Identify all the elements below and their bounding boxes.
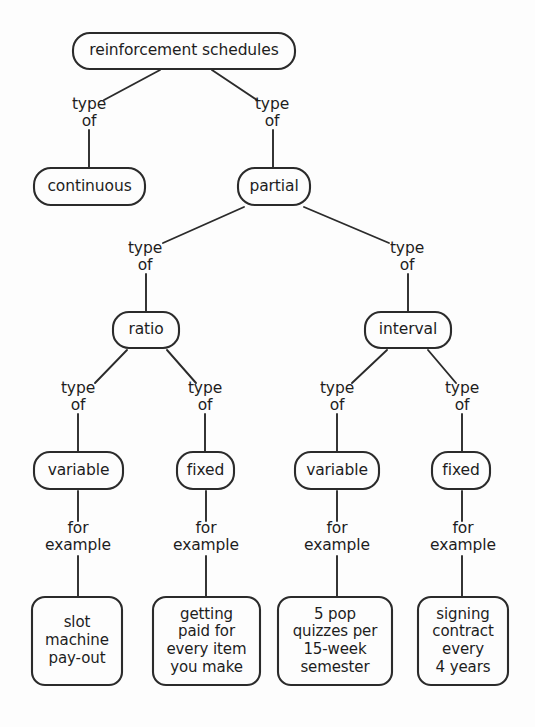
node-box-var_int[interactable] xyxy=(295,452,379,489)
node-box-fix_ratio[interactable] xyxy=(177,452,234,489)
node-box-root[interactable] xyxy=(73,33,295,69)
concept-map-diagram: reinforcement schedulescontinuouspartial… xyxy=(0,0,535,727)
node-box-continuous[interactable] xyxy=(34,168,145,205)
node-box-partial[interactable] xyxy=(238,168,310,205)
node-box-ex_sign[interactable] xyxy=(418,597,508,685)
node-layer xyxy=(0,0,535,727)
node-box-ratio[interactable] xyxy=(113,312,179,348)
node-box-ex_paid[interactable] xyxy=(153,597,260,685)
node-box-var_ratio[interactable] xyxy=(34,452,123,489)
node-box-fix_int[interactable] xyxy=(432,452,490,489)
node-box-ex_quiz[interactable] xyxy=(278,597,392,685)
node-box-interval[interactable] xyxy=(365,312,451,348)
node-box-ex_slot[interactable] xyxy=(32,597,122,685)
